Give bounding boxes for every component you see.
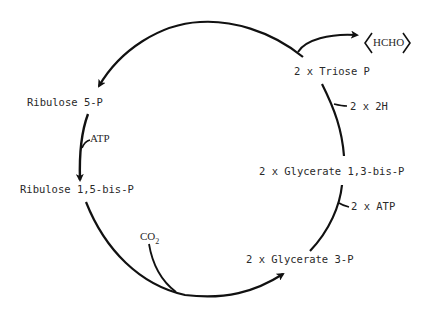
arc-triose-to-hcho [298,35,357,52]
input-2x-atp: 2 x ATP [351,201,395,212]
arc-gly3-to-gly13 [310,185,342,251]
co2-main: CO [140,230,155,242]
co2-input-line [149,244,176,292]
arc-gly13-to-triose [322,84,344,156]
input-atp: ATP [90,133,110,144]
co2-subscript: 2 [155,237,159,246]
arc-rubp-to-gly3 [86,202,283,296]
node-ribulose-15-bisp: Ribulose 1,5-bis-P [20,184,134,195]
atp-input-tick [82,140,90,148]
h2-input-tick [334,104,347,106]
input-2x2h: 2 x 2H [350,101,388,112]
node-triose-p: 2 x Triose P [294,66,370,77]
atp2-input-tick [339,203,349,207]
hcho-product: HCHO [363,31,413,55]
hcho-label: HCHO [373,36,404,48]
cycle-diagram: HCHO 2 x Triose P 2 x 2H 2 x Glycerate 1… [0,0,446,318]
input-co2: CO2 [140,231,159,242]
node-ribulose-5p: Ribulose 5-P [27,97,103,108]
node-glycerate-3p: 2 x Glycerate 3-P [246,254,353,265]
arc-ru5p-to-rubp [80,114,88,180]
node-glycerate-13-bisp: 2 x Glycerate 1,3-bis-P [259,166,404,177]
arc-triose-to-ru5p [99,22,303,86]
